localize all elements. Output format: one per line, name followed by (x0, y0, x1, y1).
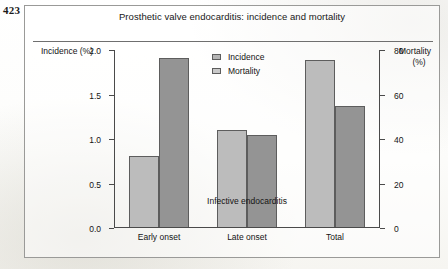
legend-label-mortality: Mortality (228, 66, 260, 76)
category-label-late-onset: Late onset (227, 232, 267, 242)
title-divider-rule (33, 41, 433, 42)
legend-label-incidence: Incidence (228, 52, 264, 62)
right-axis-unit-text: (%) (399, 57, 439, 68)
left-tick-label-1: 0.5 (89, 180, 101, 190)
right-tick-3: 60 (380, 95, 385, 96)
legend-item-incidence[interactable]: Incidence (212, 50, 264, 64)
right-tick-label-2: 40 (394, 135, 403, 145)
left-tick-3: 1.5 (109, 95, 114, 96)
legend-swatch-incidence-icon (212, 54, 221, 60)
left-tick-0: 0.0 (109, 228, 114, 229)
right-tick-label-3: 60 (394, 91, 403, 101)
right-tick-label-0: 0 (394, 224, 399, 234)
bar-mortality-total[interactable] (335, 106, 365, 227)
right-tick-label-1: 20 (394, 180, 403, 190)
category-label-early-onset: Early onset (138, 232, 181, 242)
right-tick-1: 20 (380, 184, 385, 185)
right-tick-2: 40 (380, 139, 385, 140)
chart-legend: Incidence Mortality (212, 50, 264, 78)
left-tick-label-4: 2.0 (89, 46, 101, 56)
page-number: 423 (3, 4, 20, 16)
right-tick-4: 80 (380, 50, 385, 51)
chart-title: Prosthetic valve endocarditis: incidence… (24, 11, 440, 22)
left-tick-4: 2.0 (109, 50, 114, 51)
bar-incidence-late-onset[interactable] (217, 130, 247, 227)
bar-incidence-early-onset[interactable] (129, 156, 159, 227)
left-tick-2: 1.0 (109, 139, 114, 140)
legend-item-mortality[interactable]: Mortality (212, 64, 264, 78)
left-tick-label-0: 0.0 (89, 224, 101, 234)
bar-mortality-late-onset[interactable] (247, 135, 277, 227)
x-axis-line (114, 227, 380, 228)
right-axis-label: Mortality (%) (399, 46, 447, 68)
category-label-total: Total (326, 232, 344, 242)
left-axis-label-text: Incidence (41, 46, 77, 56)
right-tick-label-4: 80 (394, 46, 403, 56)
x-axis-title: Infective endocarditis (114, 196, 380, 206)
left-tick-label-3: 1.5 (89, 91, 101, 101)
left-tick-label-2: 1.0 (89, 135, 101, 145)
right-axis-label-text: Mortality (399, 46, 431, 56)
left-tick-1: 0.5 (109, 184, 114, 185)
right-tick-0: 0 (380, 228, 385, 229)
legend-swatch-mortality-icon (212, 68, 221, 74)
